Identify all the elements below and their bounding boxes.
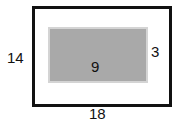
inner-area-label: 9 [91, 59, 99, 74]
outer-width-label: 18 [89, 106, 106, 120]
outer-height-label: 14 [7, 50, 24, 65]
margin-label: 3 [151, 44, 159, 59]
